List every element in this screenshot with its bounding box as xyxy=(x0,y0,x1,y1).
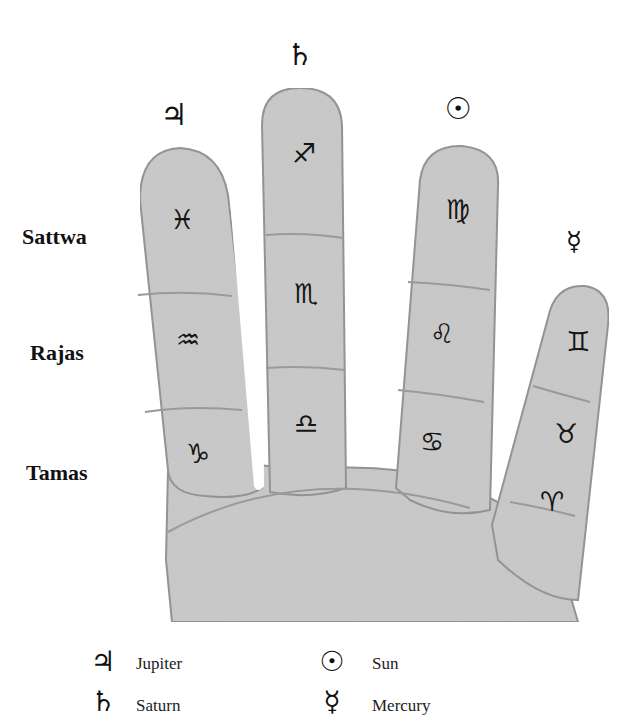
legend-saturn-icon: ♄ xyxy=(86,688,120,716)
jupiter-glyph: ♃ xyxy=(154,100,194,130)
guna-label-tamas: Tamas xyxy=(26,460,88,486)
legend-sun-icon: ☉ xyxy=(315,648,349,676)
taurus-sign: ♉ xyxy=(544,420,588,447)
legend-sun-label: Sun xyxy=(372,654,398,674)
leo-sign: ♌ xyxy=(420,320,464,347)
guna-label-rajas: Rajas xyxy=(30,340,84,366)
aquarius-sign: ♒ xyxy=(166,326,210,353)
sun-glyph: ☉ xyxy=(438,94,478,124)
cancer-sign: ♋ xyxy=(410,428,454,455)
legend-mercury-icon: ☿ xyxy=(315,688,349,716)
hand-illustration xyxy=(0,0,636,726)
legend-mercury-label: Mercury xyxy=(372,696,431,716)
virgo-sign: ♍ xyxy=(436,196,480,223)
legend-jupiter-label: Jupiter xyxy=(136,654,182,674)
libra-sign: ♎ xyxy=(284,410,328,437)
pisces-sign: ♓ xyxy=(160,206,204,233)
aries-sign: ♈ xyxy=(530,488,574,515)
gemini-sign: ♊ xyxy=(556,328,600,355)
mercury-glyph: ☿ xyxy=(554,228,594,254)
legend-saturn-label: Saturn xyxy=(136,696,180,716)
legend-jupiter-icon: ♃ xyxy=(86,648,120,676)
saturn-glyph: ♄ xyxy=(280,40,320,70)
guna-label-sattwa: Sattwa xyxy=(22,224,87,250)
scorpio-sign: ♏ xyxy=(284,280,328,307)
sagittarius-sign: ♐ xyxy=(282,140,326,167)
capricorn-sign: ♑ xyxy=(176,440,220,467)
